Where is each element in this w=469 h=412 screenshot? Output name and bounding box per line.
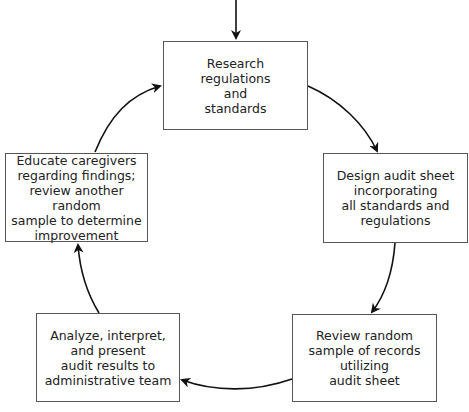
- step-research-text: Research regulations and standards: [200, 56, 270, 116]
- arrow-design-to-review: [372, 243, 395, 312]
- step-analyze: Analyze, interpret, and present audit re…: [36, 313, 180, 402]
- step-design-text: Design audit sheet incorporating all sta…: [337, 168, 455, 228]
- step-design: Design audit sheet incorporating all sta…: [323, 153, 468, 243]
- step-review: Review random sample of records utilizin…: [292, 314, 437, 402]
- arrow-review-to-analyze: [182, 379, 292, 389]
- step-research: Research regulations and standards: [163, 41, 308, 130]
- step-educate-text: Educate caregivers regarding findings; r…: [10, 153, 143, 243]
- step-review-text: Review random sample of records utilizin…: [309, 328, 421, 388]
- step-analyze-text: Analyze, interpret, and present audit re…: [45, 328, 172, 388]
- arrow-research-to-design: [308, 86, 377, 151]
- arrow-educate-to-research: [95, 86, 160, 152]
- step-educate: Educate caregivers regarding findings; r…: [5, 153, 148, 242]
- arrow-analyze-to-educate: [78, 245, 99, 313]
